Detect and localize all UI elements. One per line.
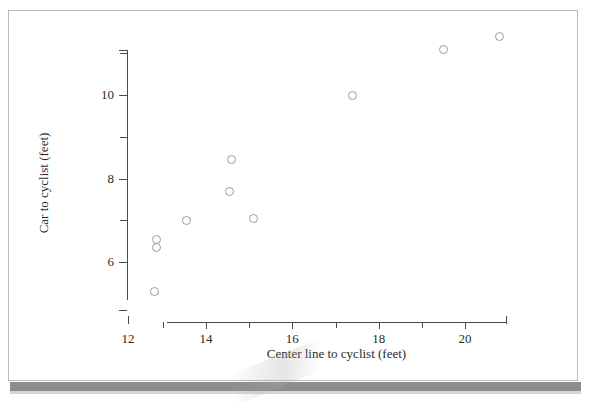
x-tick-label-18: 18 (364, 331, 394, 347)
scatter-chart: 6810 Car to cyclist (feet) 1416182012 Ce… (0, 0, 591, 409)
y-tick-label-8: 8 (84, 171, 114, 187)
y-tick-major-10 (119, 95, 127, 96)
x-tick-label-16: 16 (277, 331, 307, 347)
data-point (225, 187, 234, 196)
x-tick-minor-17 (336, 322, 337, 328)
x-axis-detached-tick-right (506, 316, 507, 324)
data-point (249, 214, 258, 223)
data-point (495, 32, 504, 41)
y-tick-label-10: 10 (84, 87, 114, 103)
x-tick-minor-15 (249, 322, 250, 328)
data-point (182, 216, 191, 225)
x-tick-major-16 (292, 322, 293, 329)
y-tick-minor-9 (120, 137, 127, 138)
x-axis-title: Center line to cyclist (feet) (167, 346, 506, 362)
x-tick-major-14 (206, 322, 207, 329)
data-point (348, 91, 357, 100)
x-tick-minor-19 (422, 322, 423, 328)
data-point (152, 243, 161, 252)
y-axis-detached-tick (119, 310, 127, 311)
data-point (150, 287, 159, 296)
y-axis-top-cap-tick (119, 50, 127, 51)
x-tick-major-20 (465, 322, 466, 329)
y-axis-title: Car to cyclist (feet) (36, 98, 52, 268)
y-tick-major-8 (119, 179, 127, 180)
y-axis-line (127, 50, 128, 300)
data-point (227, 155, 236, 164)
x-axis-detached-tick-left (128, 316, 129, 324)
x-tick-minor-13 (163, 322, 164, 328)
y-tick-minor-7 (120, 220, 127, 221)
y-tick-minor-11 (120, 53, 127, 54)
x-axis-line (167, 322, 506, 323)
x-tick-label-12: 12 (113, 331, 143, 347)
x-tick-major-18 (379, 322, 380, 329)
x-tick-label-20: 20 (450, 331, 480, 347)
y-tick-label-6: 6 (84, 254, 114, 270)
x-tick-label-14: 14 (191, 331, 221, 347)
y-tick-major-6 (119, 262, 127, 263)
data-point (439, 45, 448, 54)
